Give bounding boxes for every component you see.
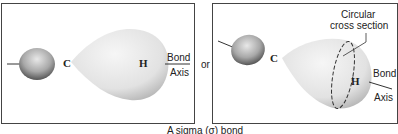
- carbon-label: C: [63, 57, 71, 69]
- large-lobe: [71, 29, 168, 100]
- small-lobe: [228, 31, 269, 69]
- bond-label: Bond: [167, 52, 190, 63]
- bond-label: Bond: [373, 68, 396, 79]
- figure-caption: A sigma (σ) bond: [0, 125, 398, 134]
- perspective-view-drawing: [218, 31, 392, 110]
- hydrogen-label: H: [351, 75, 360, 87]
- or-connector: or: [201, 59, 210, 70]
- hydrogen-label: H: [139, 57, 148, 69]
- carbon-label: C: [270, 52, 278, 64]
- annotation-line2: cross section: [330, 20, 388, 31]
- annotation-line1: Circular: [341, 9, 375, 20]
- bond-axis-right: [369, 82, 392, 89]
- side-view-drawing: [7, 29, 190, 100]
- axis-label: Axis: [170, 67, 189, 78]
- axis-label: Axis: [374, 92, 393, 103]
- small-lobe: [19, 48, 55, 80]
- large-lobe: [282, 39, 372, 109]
